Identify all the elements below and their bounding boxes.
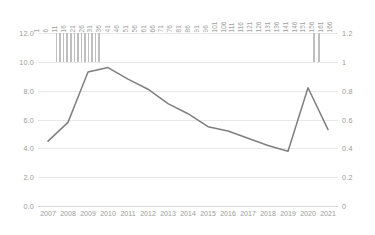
top-axis-tick: 41 xyxy=(105,25,111,32)
top-axis-tick: 36 xyxy=(96,25,102,32)
y-axis-right-tick: 0.6 xyxy=(342,116,372,125)
top-axis-tick: 51 xyxy=(123,25,129,32)
plot-area xyxy=(38,33,338,206)
top-axis-tick: 21 xyxy=(69,25,75,32)
top-axis-tick: 166 xyxy=(327,21,333,32)
x-axis-tick: 2021 xyxy=(308,210,348,217)
y-axis-left-tick: 2.0 xyxy=(4,173,34,182)
top-axis-tick: 86 xyxy=(185,25,191,32)
top-axis-tick: 91 xyxy=(194,25,200,32)
y-axis-left-tick: 4.0 xyxy=(4,144,34,153)
line-series xyxy=(38,33,338,206)
y-axis-right-tick: 0.8 xyxy=(342,87,372,96)
top-axis-tick: 76 xyxy=(167,25,173,32)
top-axis-tick: 66 xyxy=(149,25,155,32)
y-axis-left-tick: 10.0 xyxy=(4,58,34,67)
line-series-path xyxy=(48,68,328,152)
top-axis-tick: 141 xyxy=(282,21,288,32)
top-axis-tick: 156 xyxy=(309,21,315,32)
top-axis-tick: 101 xyxy=(211,21,217,32)
top-axis-tick: 6 xyxy=(43,28,49,32)
y-axis-right-tick: 1.2 xyxy=(342,29,372,38)
top-axis-tick: 161 xyxy=(318,21,324,32)
top-axis-tick: 1 xyxy=(34,28,40,32)
top-axis-tick: 16 xyxy=(60,25,66,32)
y-axis-left-tick: 6.0 xyxy=(4,116,34,125)
y-axis-right-tick: 0.4 xyxy=(342,144,372,153)
y-axis-right-tick: 1 xyxy=(342,58,372,67)
top-axis-tick: 146 xyxy=(291,21,297,32)
y-axis-left-tick: 8.0 xyxy=(4,87,34,96)
top-axis-tick: 121 xyxy=(247,21,253,32)
top-axis: 1611162126313641465156616671768186919610… xyxy=(38,2,338,32)
top-axis-tick: 116 xyxy=(238,22,244,32)
top-axis-tick: 46 xyxy=(114,25,120,32)
top-axis-tick: 26 xyxy=(78,25,84,32)
gridline xyxy=(38,206,338,207)
top-axis-tick: 71 xyxy=(158,25,164,32)
chart-container: 1611162126313641465156616671768186919610… xyxy=(0,0,375,235)
top-axis-tick: 11 xyxy=(52,25,58,32)
top-axis-tick: 56 xyxy=(131,25,137,32)
top-axis-tick: 106 xyxy=(220,21,226,32)
top-axis-tick: 31 xyxy=(87,25,93,32)
top-axis-tick: 111 xyxy=(229,22,235,32)
top-axis-tick: 96 xyxy=(202,25,208,32)
top-axis-tick: 81 xyxy=(176,25,182,32)
top-axis-tick: 126 xyxy=(256,21,262,32)
y-axis-left-tick: 12.0 xyxy=(4,29,34,38)
top-axis-tick: 151 xyxy=(300,21,306,32)
top-axis-tick: 131 xyxy=(265,21,271,32)
y-axis-right-tick: 0.2 xyxy=(342,173,372,182)
top-axis-tick: 136 xyxy=(273,21,279,32)
top-axis-tick: 61 xyxy=(140,25,146,32)
